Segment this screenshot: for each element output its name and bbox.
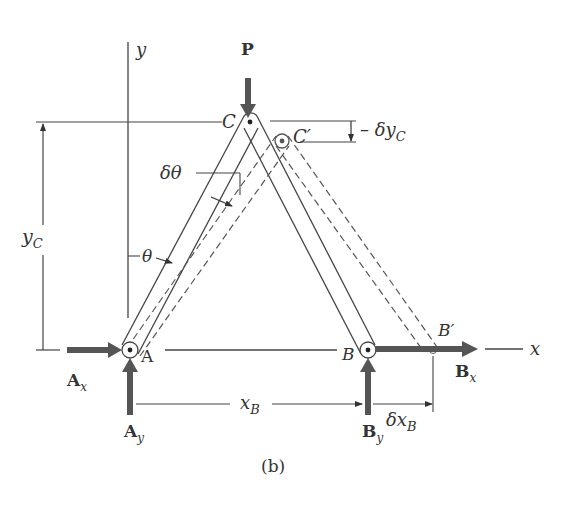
force-ax: Ax [66, 342, 122, 394]
force-ay: Ay [122, 358, 144, 445]
force-p: P [240, 39, 256, 118]
virtual-work-diagram: y x yC – δyC [0, 0, 564, 505]
force-p-label: P [241, 39, 254, 59]
point-b-label: B [341, 344, 355, 364]
xb-dimension: xB [136, 392, 362, 417]
point-c-prime-label: C′ [293, 126, 311, 147]
member-ac [122, 118, 258, 354]
displaced-member-cb [276, 136, 437, 352]
yc-dimension: yC [21, 124, 43, 350]
force-bx: Bx [375, 341, 478, 385]
delta-yc-dimension: – δyC [351, 119, 406, 144]
joint-c-prime [275, 134, 289, 148]
xb-label: xB [240, 392, 260, 417]
joint-a [122, 342, 138, 358]
figure-caption: (b) [261, 456, 285, 476]
force-by: By [360, 358, 383, 445]
point-a-label: A [140, 346, 154, 366]
y-axis-label: y [135, 39, 147, 60]
force-by-label: By [362, 421, 383, 445]
joint-b [360, 342, 376, 358]
yc-label: yC [21, 225, 43, 251]
point-b-prime-label: B′ [437, 320, 454, 340]
x-axis-label: x [530, 338, 540, 359]
reference-lines [36, 121, 356, 350]
delta-xb-dimension: δxB [373, 356, 433, 434]
force-ax-label: Ax [66, 370, 87, 394]
delta-yc-label: – δyC [360, 119, 406, 144]
force-ay-label: Ay [123, 421, 144, 445]
delta-theta-label: δθ [160, 162, 182, 183]
theta-label: θ [142, 246, 152, 266]
point-c-label: C [222, 111, 236, 132]
force-bx-label: Bx [455, 361, 476, 385]
delta-xb-label: δxB [386, 409, 417, 434]
joint-c [243, 113, 258, 125]
y-axis: y [128, 39, 147, 318]
